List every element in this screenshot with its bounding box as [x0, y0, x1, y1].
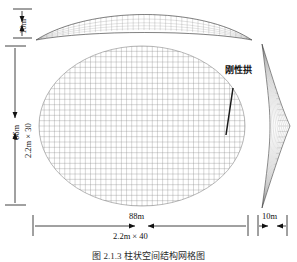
label-plan-width: 88m: [129, 212, 144, 221]
label-plan-height: 66m: [12, 125, 21, 140]
top-elevation-view: [36, 6, 252, 40]
label-top-rise: 10m: [19, 19, 28, 34]
label-rigid-arch: 刚性拱: [225, 66, 252, 75]
plan-view: [37, 44, 247, 208]
figure-caption: 图 2.1.3 柱状空间结构网格图: [0, 249, 297, 262]
side-elevation-view: [262, 44, 297, 208]
label-plan-height-grid: 2.2m × 30: [24, 123, 33, 158]
label-side-rise: 10m: [262, 212, 277, 221]
label-plan-width-grid: 2.2m × 40: [113, 232, 148, 241]
